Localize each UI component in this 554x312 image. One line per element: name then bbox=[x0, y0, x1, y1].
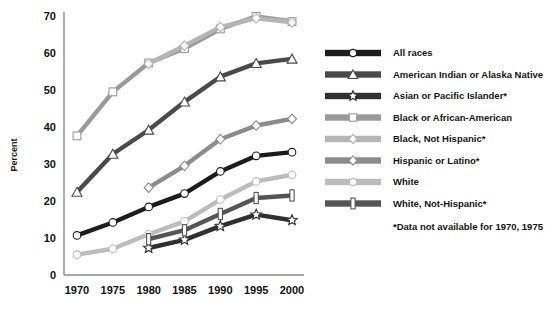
legend-label: White, Not-Hispanic* bbox=[393, 198, 487, 209]
y-tick-label: 30 bbox=[44, 158, 56, 170]
legend-label: Black, Not Hispanic* bbox=[393, 133, 486, 144]
data-point-circle-marker bbox=[288, 171, 296, 179]
data-point-circle-marker bbox=[288, 148, 296, 156]
data-point-square-marker bbox=[349, 114, 356, 121]
data-point-circle-marker bbox=[73, 232, 81, 240]
legend-label: All races bbox=[393, 47, 433, 58]
data-point-square-marker bbox=[109, 88, 117, 96]
data-point-circle-marker bbox=[217, 168, 225, 176]
legend-label: Black or African-American bbox=[393, 112, 512, 123]
data-point-circle-marker bbox=[181, 190, 189, 198]
data-point-ibar-marker bbox=[218, 208, 222, 219]
data-point-circle-marker bbox=[252, 152, 260, 160]
data-point-circle-marker bbox=[73, 251, 81, 259]
data-point-ibar-marker bbox=[351, 198, 355, 209]
data-point-circle-marker bbox=[349, 49, 356, 56]
y-tick-label: 60 bbox=[44, 47, 56, 59]
legend-item[interactable]: Asian or Pacific Islander* bbox=[325, 90, 507, 101]
x-tick-label: 1985 bbox=[172, 284, 196, 296]
data-point-square-marker bbox=[73, 132, 81, 140]
data-point-ibar-marker bbox=[182, 225, 186, 236]
data-point-circle-marker bbox=[109, 245, 117, 253]
y-tick-label: 70 bbox=[44, 10, 56, 22]
x-tick-label: 1970 bbox=[65, 284, 89, 296]
x-tick-label: 1980 bbox=[136, 284, 160, 296]
x-tick-label: 1995 bbox=[244, 284, 268, 296]
percent-by-race-line-chart: 010203040506070 197019751980198519901995… bbox=[0, 0, 554, 312]
legend-label: Hispanic or Latino* bbox=[393, 155, 480, 166]
x-tick-label: 2000 bbox=[280, 284, 304, 296]
y-axis-title: Percent bbox=[9, 138, 19, 171]
legend-label: White bbox=[393, 176, 419, 187]
legend-footnote: *Data not available for 1970, 1975 bbox=[393, 221, 544, 232]
legend-label: American Indian or Alaska Native bbox=[393, 69, 543, 80]
y-tick-label: 50 bbox=[44, 84, 56, 96]
data-point-circle-marker bbox=[109, 219, 117, 227]
data-point-circle-marker bbox=[181, 218, 189, 226]
data-point-ibar-marker bbox=[147, 234, 151, 245]
y-tick-label: 20 bbox=[44, 195, 56, 207]
y-tick-label: 40 bbox=[44, 121, 56, 133]
data-point-ibar-marker bbox=[290, 190, 294, 201]
legend-label: Asian or Pacific Islander* bbox=[393, 90, 507, 101]
data-point-circle-marker bbox=[217, 196, 225, 204]
data-point-ibar-marker bbox=[254, 192, 258, 203]
y-tick-label: 0 bbox=[50, 269, 56, 281]
data-point-circle-marker bbox=[349, 178, 356, 185]
data-point-circle-marker bbox=[252, 178, 260, 186]
y-tick-label: 10 bbox=[44, 232, 56, 244]
x-tick-label: 1990 bbox=[208, 284, 232, 296]
x-axis-tick-labels: 1970197519801985199019952000 bbox=[65, 284, 304, 296]
x-tick-label: 1975 bbox=[101, 284, 125, 296]
data-point-circle-marker bbox=[145, 203, 153, 211]
